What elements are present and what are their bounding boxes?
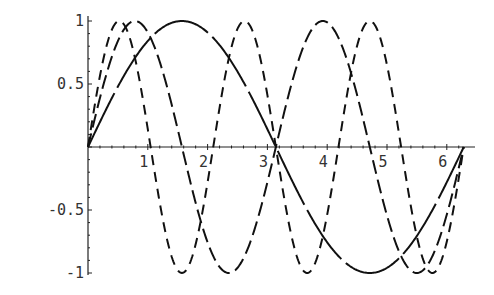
x-tick-label: 5 — [378, 153, 387, 171]
y-tick-label: -0.5 — [48, 201, 84, 219]
line-chart: 12345610.5-0.5-1 — [0, 0, 494, 295]
y-tick-label: 0.5 — [57, 75, 84, 93]
x-tick-label: 6 — [438, 153, 447, 171]
x-tick-label: 4 — [319, 153, 328, 171]
x-tick-label: 2 — [199, 153, 208, 171]
y-tick-label: 1 — [75, 12, 84, 30]
x-tick-label: 1 — [139, 153, 148, 171]
y-tick-label: -1 — [66, 264, 84, 282]
x-tick-label: 3 — [259, 153, 268, 171]
